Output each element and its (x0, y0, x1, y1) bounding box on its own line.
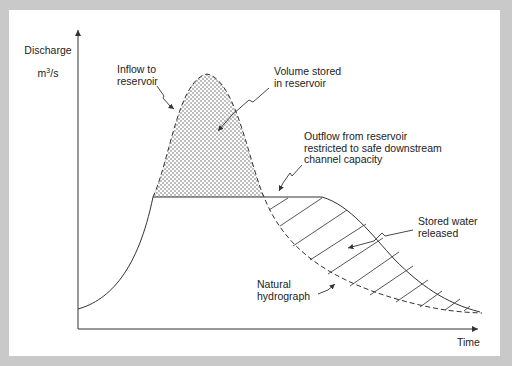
inflow-leader-arrow (157, 86, 174, 109)
stored-water-released-label: Stored water released (418, 216, 478, 239)
outflow-leader-arrow (279, 165, 302, 191)
x-axis-label: Time (457, 337, 480, 349)
y-axis-label-line1: Discharge (24, 44, 71, 56)
outflow-label: Outflow from reservoir restricted to saf… (304, 131, 442, 166)
y-axis-label: Discharge m3/s (22, 33, 74, 79)
natural-hydrograph-leader-arrow (318, 284, 335, 294)
volume-stored-region (153, 74, 264, 197)
volume-stored-label: Volume stored in reservoir (274, 66, 341, 89)
rising-limb-curve (78, 197, 153, 309)
stored-released-leader-arrow (348, 230, 413, 248)
y-axis-unit: m3/s (38, 67, 59, 79)
hydrograph-diagram (0, 0, 512, 366)
natural-hydrograph-label: Natural hydrograph (257, 279, 310, 302)
inflow-label: Inflow to reservoir (117, 64, 158, 87)
